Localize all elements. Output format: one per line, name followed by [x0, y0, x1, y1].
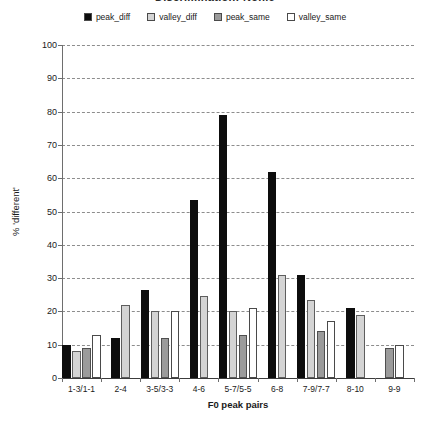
bar-chart: Discrimination: Nonie peak_diffvalley_di…: [0, 0, 430, 425]
bar-valley-same[interactable]: [395, 345, 404, 378]
bar-valley-diff[interactable]: [356, 315, 365, 378]
legend-swatch-icon: [287, 13, 295, 21]
x-tick-label: 6-8: [271, 384, 283, 394]
bar-peak-same[interactable]: [239, 335, 248, 378]
bar-peak-same[interactable]: [82, 348, 91, 378]
x-tick-mark: [375, 378, 376, 382]
bar-valley-diff[interactable]: [121, 305, 130, 378]
y-tick-label: 70: [47, 140, 57, 150]
bar-peak-same[interactable]: [161, 338, 170, 378]
y-tick-label: 50: [47, 207, 57, 217]
y-axis-title: % 'different': [8, 45, 22, 378]
bar-valley-diff[interactable]: [151, 311, 160, 378]
x-tick-mark: [297, 378, 298, 382]
plot-area: 0102030405060708090100: [62, 45, 414, 378]
x-tick-mark: [179, 378, 180, 382]
x-tick-mark: [258, 378, 259, 382]
x-tick-label: 5-7/5-5: [225, 384, 252, 394]
bar-group: [336, 45, 375, 378]
legend-entry-valley-same[interactable]: valley_same: [287, 13, 346, 22]
y-axis-title-text: % 'different': [10, 187, 21, 236]
legend-swatch-icon: [214, 13, 222, 21]
legend-entry-peak-diff[interactable]: peak_diff: [84, 13, 130, 22]
legend-entry-valley-diff[interactable]: valley_diff: [147, 13, 197, 22]
y-tick-label: 90: [47, 73, 57, 83]
bar-group: [101, 45, 140, 378]
bar-valley-diff[interactable]: [229, 311, 238, 378]
bar-valley-same[interactable]: [92, 335, 101, 378]
bars-layer: [62, 45, 414, 378]
y-tick-label: 30: [47, 273, 57, 283]
bar-valley-same[interactable]: [327, 321, 336, 378]
x-tick-label: 4-6: [193, 384, 205, 394]
bar-peak-diff[interactable]: [297, 275, 306, 378]
x-tick-mark: [218, 378, 219, 382]
bar-peak-same[interactable]: [385, 348, 394, 378]
y-tick-label: 10: [47, 340, 57, 350]
x-tick-label: 2-4: [115, 384, 127, 394]
legend-label: peak_diff: [96, 13, 130, 22]
bar-peak-diff[interactable]: [346, 308, 355, 378]
bar-valley-diff[interactable]: [200, 296, 209, 378]
bar-group: [258, 45, 297, 378]
legend-label: peak_same: [226, 13, 270, 22]
x-tick-mark: [414, 378, 415, 382]
x-axis-ticks: 1-3/1-12-43-5/3-34-65-7/5-56-87-9/7-78-1…: [62, 380, 414, 396]
x-tick-mark: [336, 378, 337, 382]
legend-entry-peak-same[interactable]: peak_same: [214, 13, 270, 22]
x-tick-label: 3-5/3-3: [146, 384, 173, 394]
bar-valley-same[interactable]: [171, 311, 180, 378]
x-tick-mark: [101, 378, 102, 382]
bar-valley-same[interactable]: [249, 308, 258, 378]
x-tick-label: 8-10: [347, 384, 364, 394]
x-tick-mark: [140, 378, 141, 382]
y-tick-label: 0: [52, 373, 57, 383]
bar-peak-diff[interactable]: [141, 290, 150, 378]
x-axis-title: F0 peak pairs: [62, 399, 414, 410]
bar-peak-diff[interactable]: [190, 200, 199, 378]
x-tick-mark: [62, 378, 63, 382]
bar-group: [140, 45, 179, 378]
chart-legend: peak_diffvalley_diffpeak_samevalley_same: [0, 13, 430, 22]
x-tick-label: 9-9: [388, 384, 400, 394]
legend-label: valley_same: [299, 13, 346, 22]
y-tick-label: 100: [42, 40, 57, 50]
y-tick-label: 40: [47, 240, 57, 250]
bar-valley-diff[interactable]: [72, 351, 81, 378]
y-tick-label: 80: [47, 107, 57, 117]
bar-valley-diff[interactable]: [278, 275, 287, 378]
bar-peak-diff[interactable]: [268, 172, 277, 378]
legend-swatch-icon: [84, 13, 92, 21]
x-tick-label: 7-9/7-7: [303, 384, 330, 394]
bar-group: [375, 45, 414, 378]
bar-valley-diff[interactable]: [307, 300, 316, 378]
y-tick-label: 20: [47, 306, 57, 316]
bar-group: [297, 45, 336, 378]
bar-peak-diff[interactable]: [62, 345, 71, 378]
bar-group: [218, 45, 257, 378]
bar-peak-same[interactable]: [317, 331, 326, 378]
bar-peak-diff[interactable]: [219, 115, 228, 378]
x-axis-line: [62, 378, 414, 379]
legend-label: valley_diff: [159, 13, 197, 22]
y-tick-label: 60: [47, 173, 57, 183]
legend-swatch-icon: [147, 13, 155, 21]
x-tick-label: 1-3/1-1: [68, 384, 95, 394]
bar-group: [62, 45, 101, 378]
chart-title: Discrimination: Nonie: [0, 0, 430, 3]
bar-peak-diff[interactable]: [111, 338, 120, 378]
bar-group: [179, 45, 218, 378]
